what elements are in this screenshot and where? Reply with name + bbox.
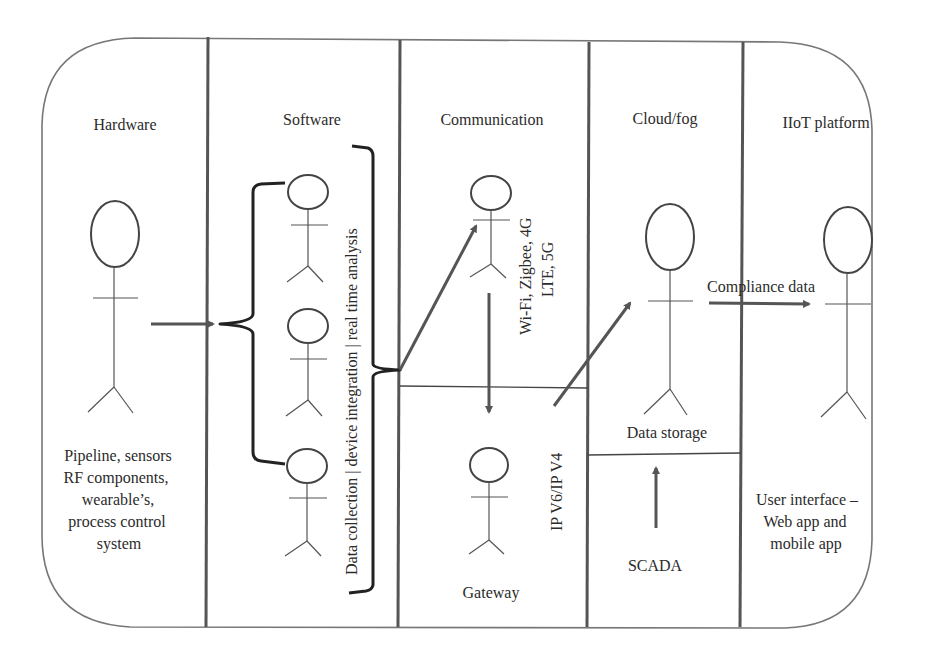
communication-protocols-label: Wi-Fi, Zigbee, 4G <box>517 217 535 335</box>
arrow-gateway-to-cloud <box>554 303 630 406</box>
header-communication: Communication <box>440 111 543 128</box>
divider-hardware-software <box>206 37 208 627</box>
arrow-cloud-to-platform <box>709 303 809 304</box>
actor-icon <box>287 175 328 282</box>
scada-label: SCADA <box>628 557 683 574</box>
ip-version-label: IP V6/IP V4 <box>548 453 565 531</box>
communication-protocols-label-2: LTE, 5G <box>539 241 556 297</box>
communication-split <box>400 386 588 388</box>
software-group-brace <box>220 183 285 464</box>
actor-icon <box>469 448 508 554</box>
actor-icon <box>286 309 328 416</box>
header-software: Software <box>283 111 341 128</box>
divider-software-communication <box>398 40 400 627</box>
actor-icon <box>644 204 694 415</box>
actor-icon <box>821 207 872 419</box>
data-storage-label: Data storage <box>627 424 707 442</box>
compliance-data-label: Compliance data <box>707 278 815 296</box>
header-iiot-platform: IIoT platform <box>782 114 870 132</box>
header-hardware: Hardware <box>93 116 156 133</box>
divider-cloud-platform <box>740 42 743 627</box>
iiot-architecture-diagram: Hardware Software Communication Cloud/fo… <box>0 0 946 661</box>
hardware-description: Pipeline, sensors RF components, wearabl… <box>64 447 176 553</box>
header-cloud-fog: Cloud/fog <box>633 110 698 128</box>
actor-icon <box>88 201 139 413</box>
cloud-split <box>588 453 741 455</box>
actor-icon <box>285 449 327 556</box>
arrow-software-to-communication <box>400 226 476 370</box>
software-function-label: Data collection | device integration | r… <box>343 228 361 575</box>
divider-communication-cloud <box>587 42 589 627</box>
gateway-label: Gateway <box>463 584 520 602</box>
platform-description: User interface – Web app and mobile app <box>756 491 862 553</box>
